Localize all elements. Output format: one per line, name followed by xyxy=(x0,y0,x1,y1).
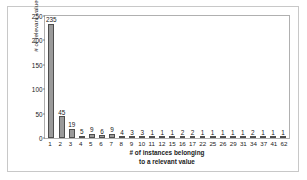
bar xyxy=(159,136,165,138)
bar xyxy=(220,136,226,138)
x-axis-ticks: 123456789101112151617222526293134374162 xyxy=(45,140,289,147)
bar-slot: 1 xyxy=(147,16,157,138)
bar-slot: 5 xyxy=(77,16,87,138)
bar-slot: 3 xyxy=(127,16,137,138)
bar xyxy=(240,136,246,138)
y-tick-mark xyxy=(43,40,46,41)
bar-slot: 2 xyxy=(187,16,197,138)
bar xyxy=(69,129,75,138)
bar-value-label: 1 xyxy=(271,129,275,136)
bar xyxy=(119,136,125,138)
bar-value-label: 1 xyxy=(221,129,225,136)
bar-value-label: 4 xyxy=(120,129,124,136)
x-tick-label: 8 xyxy=(116,140,126,147)
x-tick-label: 29 xyxy=(228,140,238,147)
bar-series: 2354519596943311122111112111 xyxy=(46,16,288,138)
y-tick-mark xyxy=(43,16,46,17)
bar-value-label: 1 xyxy=(150,129,154,136)
x-tick-label: 6 xyxy=(96,140,106,147)
x-tick-label: 11 xyxy=(147,140,157,147)
x-tick-label: 22 xyxy=(198,140,208,147)
bar xyxy=(169,136,175,138)
bar-slot: 3 xyxy=(137,16,147,138)
bar xyxy=(200,136,206,138)
bar xyxy=(109,134,115,138)
x-tick-label: 37 xyxy=(259,140,269,147)
bar-value-label: 2 xyxy=(251,129,255,136)
bar-value-label: 235 xyxy=(46,16,57,23)
bar xyxy=(270,136,276,138)
bar-value-label: 9 xyxy=(90,126,94,133)
x-axis-title: # of instances belonging to a relevant v… xyxy=(44,149,290,166)
x-axis-title-line1: # of instances belonging xyxy=(130,149,205,156)
bar-value-label: 1 xyxy=(211,129,215,136)
bar-value-label: 5 xyxy=(80,128,84,135)
bar xyxy=(180,136,186,138)
bar-value-label: 9 xyxy=(110,126,114,133)
x-tick-label: 3 xyxy=(65,140,75,147)
x-tick-label: 4 xyxy=(76,140,86,147)
bar-slot: 2 xyxy=(177,16,187,138)
bar-slot: 2 xyxy=(248,16,258,138)
bar-slot: 6 xyxy=(97,16,107,138)
bar-value-label: 2 xyxy=(191,129,195,136)
bar-slot: 1 xyxy=(278,16,288,138)
bar xyxy=(260,136,266,138)
bar-slot: 1 xyxy=(218,16,228,138)
bar xyxy=(250,136,256,138)
bar-slot: 1 xyxy=(258,16,268,138)
bar-slot: 235 xyxy=(46,16,57,138)
x-tick-label: 41 xyxy=(269,140,279,147)
bar-slot: 45 xyxy=(57,16,67,138)
y-tick-label: 250 xyxy=(32,13,43,20)
bar-slot: 19 xyxy=(67,16,77,138)
x-axis-title-line2: to a relevant value xyxy=(44,158,290,167)
y-tick-label: 100 xyxy=(32,86,43,93)
x-tick-label: 31 xyxy=(238,140,248,147)
y-tick-mark xyxy=(43,64,46,65)
y-tick-mark xyxy=(43,113,46,114)
bar xyxy=(129,136,135,138)
y-tick-mark xyxy=(43,89,46,90)
bar xyxy=(59,116,65,138)
x-tick-label: 5 xyxy=(86,140,96,147)
bar xyxy=(139,136,145,138)
x-tick-label: 16 xyxy=(177,140,187,147)
bar xyxy=(210,136,216,138)
bar xyxy=(230,136,236,138)
bar-value-label: 3 xyxy=(140,129,144,136)
bar xyxy=(99,135,105,138)
y-tick-label: 50 xyxy=(35,110,42,117)
bar-value-label: 6 xyxy=(100,128,104,135)
x-tick-label: 26 xyxy=(218,140,228,147)
chart-figure-frame: # of relevant values 250200150100500 235… xyxy=(7,6,299,172)
bar-slot: 9 xyxy=(87,16,97,138)
x-tick-label: 9 xyxy=(126,140,136,147)
bar-value-label: 1 xyxy=(171,129,175,136)
x-tick-label: 12 xyxy=(157,140,167,147)
y-tick-label: 150 xyxy=(32,61,43,68)
bar-slot: 1 xyxy=(157,16,167,138)
x-tick-label: 7 xyxy=(106,140,116,147)
bar xyxy=(280,136,286,138)
bar-value-label: 1 xyxy=(231,129,235,136)
bar-slot: 1 xyxy=(268,16,278,138)
bar-slot: 4 xyxy=(117,16,127,138)
x-tick-label: 2 xyxy=(55,140,65,147)
y-tick-mark xyxy=(43,138,46,139)
plot-frame: 250200150100500 235451959694331112211111… xyxy=(44,15,290,139)
x-tick-label: 17 xyxy=(187,140,197,147)
bar-value-label: 45 xyxy=(58,109,65,116)
bar-value-label: 19 xyxy=(68,121,75,128)
bar xyxy=(79,136,85,138)
x-tick-label: 1 xyxy=(45,140,55,147)
x-tick-label: 25 xyxy=(208,140,218,147)
bar-slot: 1 xyxy=(228,16,238,138)
bar-slot: 9 xyxy=(107,16,117,138)
bar-value-label: 1 xyxy=(281,129,285,136)
bar-value-label: 3 xyxy=(130,129,134,136)
y-tick-label: 200 xyxy=(32,37,43,44)
bar-value-label: 2 xyxy=(181,129,185,136)
bar-slot: 1 xyxy=(238,16,248,138)
bar-value-label: 1 xyxy=(201,129,205,136)
